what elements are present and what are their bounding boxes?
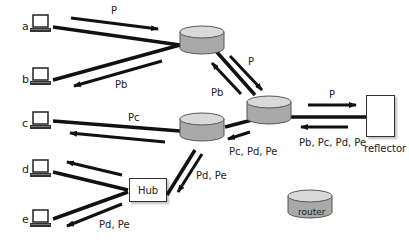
host-d-computer-icon xyxy=(30,160,51,177)
flow-label-r2-r1: Pb xyxy=(211,88,223,98)
legend-router-label: router xyxy=(298,208,325,217)
link-c-r3 xyxy=(53,121,180,131)
arrow-hub-d xyxy=(67,162,122,175)
host-a-computer-icon xyxy=(30,15,51,32)
network-diagram xyxy=(0,0,409,246)
hub-box: Hub xyxy=(129,178,167,202)
flow-label-r2-reflector: P xyxy=(329,90,335,100)
flow-label-a-r1: P xyxy=(111,6,117,16)
host-b-label: b xyxy=(22,74,29,85)
host-e-computer-icon xyxy=(30,210,51,227)
host-c-computer-icon xyxy=(30,112,51,129)
hub-label: Hub xyxy=(138,185,158,196)
arrow-r3-c xyxy=(70,133,165,142)
flow-label-reflector-r2: Pb, Pc, Pd, Pe xyxy=(299,138,366,148)
flow-label-hub-e: Pd, Pe xyxy=(99,220,130,230)
host-c-label: c xyxy=(22,118,28,129)
arrow-a-r1 xyxy=(71,18,158,29)
router-2-icon xyxy=(247,96,291,124)
flow-label-r3-hub: Pd, Pe xyxy=(196,171,227,181)
reflector-box xyxy=(366,95,395,137)
host-b-computer-icon xyxy=(30,68,51,85)
link-r2-r3 xyxy=(225,120,252,127)
reflector-label: reflector xyxy=(364,144,406,154)
flow-label-r2-r3: Pc, Pd, Pe xyxy=(229,147,277,157)
link-a-r1 xyxy=(53,27,180,45)
arrow-r2-r3 xyxy=(228,132,250,139)
flow-label-r1-b: Pb xyxy=(115,80,127,90)
router-3-icon xyxy=(180,113,224,141)
router-1-icon xyxy=(180,26,224,54)
flow-label-r3-c: Pc xyxy=(128,113,140,123)
host-d-label: d xyxy=(22,164,29,175)
host-e-label: e xyxy=(22,214,29,225)
host-a-label: a xyxy=(22,21,29,32)
flow-label-r1-r2: P xyxy=(248,57,254,67)
